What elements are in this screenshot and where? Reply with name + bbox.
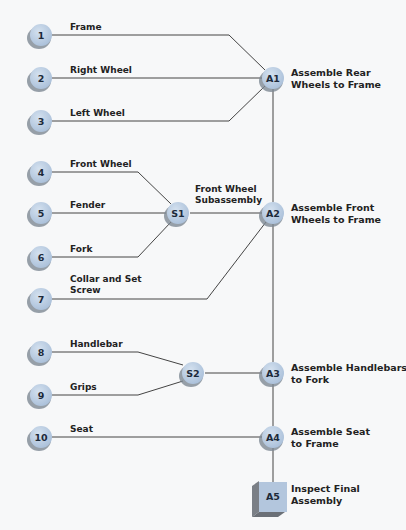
part-node-10: 10	[27, 426, 52, 451]
subassembly-label-s1: Front WheelSubassembly	[195, 184, 262, 205]
node-id: S1	[171, 208, 184, 219]
node-id: A1	[266, 73, 280, 84]
part-label-1: Frame	[70, 22, 102, 32]
node-id: 6	[38, 252, 45, 263]
node-id: 10	[34, 432, 48, 443]
assembly-desc-a2: Assemble FrontWheels to Frame	[291, 202, 381, 225]
node-id: 1	[38, 30, 45, 41]
part-label-5: Fender	[70, 200, 106, 210]
part-label-8: Handlebar	[70, 339, 123, 349]
part-node-4: 4	[27, 161, 52, 186]
part-label-9: Grips	[70, 382, 97, 392]
part-label-4: Front Wheel	[70, 159, 132, 169]
node-id: S2	[186, 368, 199, 379]
box-side	[252, 481, 259, 517]
connector-lines	[50, 35, 273, 482]
assembly-node-a1: A1	[259, 67, 284, 92]
assembly-node-a2: A2	[259, 202, 284, 227]
assembly-desc-a3: Assemble Handlebarsto Fork	[291, 362, 406, 385]
part-node-7: 7	[27, 288, 52, 313]
assembly-chart: 12345678910 FrameRight WheelLeft WheelFr…	[0, 0, 406, 530]
node-id: 2	[38, 73, 45, 84]
node-id: 9	[38, 390, 45, 401]
part-node-9: 9	[27, 384, 52, 409]
part-label-2: Right Wheel	[70, 65, 132, 75]
part-label-7: Collar and SetScrew	[70, 274, 142, 295]
part-label-6: Fork	[70, 244, 93, 254]
part-label-3: Left Wheel	[70, 108, 125, 118]
assembly-desc-a4: Assemble Seatto Frame	[291, 426, 371, 449]
part-node-3: 3	[27, 110, 52, 135]
node-id: A2	[266, 208, 280, 219]
node-id: 4	[38, 167, 45, 178]
node-id: A5	[266, 491, 280, 502]
assembly-node-a3: A3	[259, 362, 284, 387]
node-id: 8	[38, 347, 45, 358]
node-id: 7	[38, 294, 45, 305]
part-node-8: 8	[27, 341, 52, 366]
inspection-desc-a5: Inspect FinalAssembly	[291, 483, 360, 506]
line-8-s2	[50, 352, 183, 365]
assembly-node-a4: A4	[259, 426, 284, 451]
line-6-s1	[50, 222, 171, 257]
node-id: A4	[266, 432, 280, 443]
node-id: 3	[38, 116, 45, 127]
inspection-node-a5: A5	[252, 481, 287, 517]
part-node-5: 5	[27, 202, 52, 227]
assembly-desc-a1: Assemble RearWheels to Frame	[291, 67, 381, 90]
line-4-s1	[50, 172, 171, 204]
part-node-1: 1	[27, 24, 52, 49]
part-node-6: 6	[27, 246, 52, 271]
node-id: 5	[38, 208, 45, 219]
subassembly-node-s2: S2	[179, 362, 204, 387]
subassembly-node-s1: S1	[164, 202, 189, 227]
part-label-10: Seat	[70, 424, 94, 434]
node-id: A3	[266, 368, 280, 379]
part-node-2: 2	[27, 67, 52, 92]
